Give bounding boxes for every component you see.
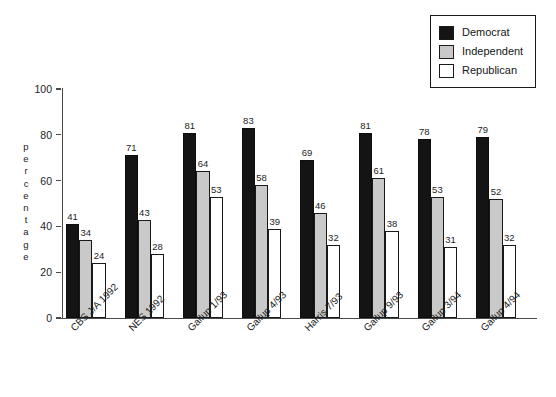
y-axis-tick: [56, 180, 61, 181]
y-axis-title-letter: e: [19, 251, 33, 263]
bar-independent-8: [489, 199, 502, 318]
chart-figure: Democrat Independent Republican percenta…: [0, 0, 556, 397]
bar-value-label: 31: [440, 235, 461, 245]
y-axis-tick: [56, 88, 61, 89]
bar-value-label: 64: [192, 159, 213, 169]
y-axis-title-letter: p: [19, 141, 33, 153]
bar-democrat-7: [418, 139, 431, 318]
legend-swatch-independent: [439, 45, 454, 59]
bar-value-label: 58: [251, 173, 272, 183]
bar-value-label: 81: [179, 121, 200, 131]
legend-label-democrat: Democrat: [462, 27, 510, 38]
legend-label-republican: Republican: [462, 65, 517, 76]
bar-democrat-5: [300, 160, 313, 318]
bar-independent-6: [372, 178, 385, 318]
legend-item-democrat: Democrat: [439, 23, 528, 42]
y-axis-tick: [56, 272, 61, 273]
bar-value-label: 34: [75, 228, 96, 238]
legend-swatch-democrat: [439, 26, 454, 40]
bar-value-label: 32: [323, 233, 344, 243]
y-axis-title-letter: e: [19, 153, 33, 165]
y-axis-title-letter: g: [19, 239, 33, 251]
bar-value-label: 61: [368, 166, 389, 176]
bar-value-label: 24: [88, 251, 109, 261]
bar-value-label: 81: [355, 121, 376, 131]
y-axis-tick-label: 60: [22, 176, 52, 187]
chart-legend: Democrat Independent Republican: [430, 15, 536, 88]
plot-area: 4134247143288164538358396946328161387853…: [62, 89, 535, 318]
bar-value-label: 52: [485, 187, 506, 197]
bar-value-label: 39: [264, 217, 285, 227]
y-axis-tick-label: 40: [22, 221, 52, 232]
y-axis-tick-label: 20: [22, 267, 52, 278]
bar-independent-4: [255, 185, 268, 318]
y-axis-title-letter: e: [19, 190, 33, 202]
y-axis-tick-label: 100: [22, 84, 52, 95]
legend-label-independent: Independent: [462, 46, 523, 57]
bar-value-label: 46: [310, 201, 331, 211]
y-axis-tick: [56, 226, 61, 227]
bar-value-label: 43: [134, 208, 155, 218]
bar-independent-7: [431, 197, 444, 318]
bar-value-label: 53: [206, 185, 227, 195]
bar-value-label: 32: [499, 233, 520, 243]
legend-swatch-republican: [439, 64, 454, 78]
y-axis-tick: [56, 134, 61, 135]
bar-value-label: 83: [238, 116, 259, 126]
y-axis-tick: [56, 317, 61, 318]
bar-value-label: 28: [147, 242, 168, 252]
bar-democrat-4: [242, 128, 255, 318]
bar-value-label: 71: [121, 143, 142, 153]
legend-item-independent: Independent: [439, 42, 528, 61]
y-axis-title-letter: n: [19, 202, 33, 214]
bar-value-label: 53: [427, 185, 448, 195]
bar-value-label: 69: [296, 148, 317, 158]
y-axis-tick-label: 80: [22, 130, 52, 141]
bar-democrat-8: [476, 137, 489, 318]
bar-value-label: 78: [414, 127, 435, 137]
bar-democrat-2: [125, 155, 138, 318]
legend-item-republican: Republican: [439, 61, 528, 80]
bar-democrat-1: [66, 224, 79, 318]
bar-value-label: 79: [472, 125, 493, 135]
bar-democrat-6: [359, 133, 372, 318]
y-axis-title: percentage: [19, 141, 33, 263]
bar-value-label: 38: [381, 219, 402, 229]
y-axis-tick-label: 0: [22, 313, 52, 324]
bar-value-label: 41: [62, 212, 83, 222]
